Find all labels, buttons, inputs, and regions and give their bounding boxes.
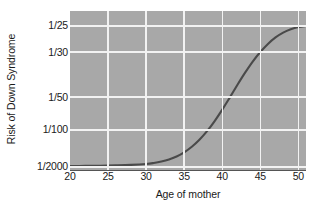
gridline-vertical (222, 11, 224, 170)
gridline-horizontal (70, 166, 306, 168)
gridline-horizontal (70, 129, 306, 131)
gridline-vertical (183, 11, 185, 170)
risk-curve (70, 11, 306, 170)
gridline-vertical (107, 11, 109, 170)
x-tick-label: 35 (179, 171, 190, 182)
x-tick-label: 30 (140, 171, 151, 182)
y-tick-label: 1/30 (22, 47, 68, 58)
y-tick-label: 1/50 (22, 92, 68, 103)
y-tick-label: 1/100 (22, 124, 68, 135)
chart-figure: Risk of Down Syndrome 1/251/301/501/1001… (0, 0, 319, 208)
y-tick-label: 1/25 (22, 20, 68, 31)
gridline-vertical (260, 11, 262, 170)
gridline-horizontal (70, 25, 306, 27)
gridline-horizontal (70, 51, 306, 53)
y-axis-title-text: Risk of Down Syndrome (5, 34, 17, 145)
gridline-vertical (145, 11, 147, 170)
x-tick-label: 25 (102, 171, 113, 182)
gridline-vertical (298, 11, 300, 170)
x-tick-label: 45 (255, 171, 266, 182)
x-axis-tick-labels: 20253035404550 (0, 171, 319, 187)
x-tick-label: 50 (293, 171, 304, 182)
x-tick-label: 40 (217, 171, 228, 182)
plot-area (70, 11, 306, 170)
gridline-horizontal (70, 96, 306, 98)
x-axis-title: Age of mother (70, 188, 306, 200)
x-tick-label: 20 (64, 171, 75, 182)
y-axis-title: Risk of Down Syndrome (0, 0, 22, 178)
